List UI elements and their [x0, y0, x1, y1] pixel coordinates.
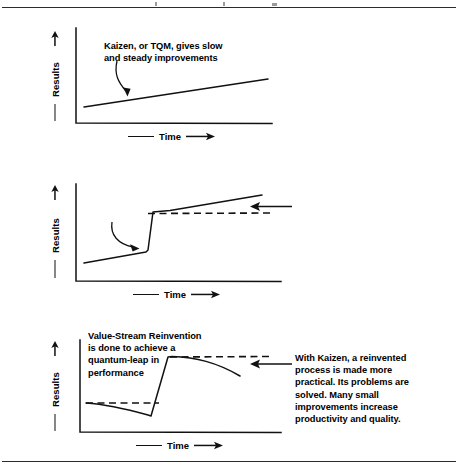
chart2-x-axis-text: Time	[164, 289, 186, 300]
chart2-x-axis-dash	[133, 294, 159, 295]
chart3-plot	[0, 320, 458, 458]
chart1-x-axis-dash	[128, 136, 154, 137]
scan-speck	[272, 3, 277, 6]
chart1-annotation: Kaizen, or TQM, gives slow and steady im…	[104, 40, 223, 64]
figure-top-rule	[2, 7, 456, 8]
chart-kaizen-steady: Results Kaizen, or TQM, gives slow and s…	[0, 14, 458, 150]
right-arrow-icon	[186, 131, 216, 142]
chart-without-kaizen: Results Without Kaizen, procedures tend …	[0, 320, 458, 458]
figure-bottom-rule	[2, 461, 456, 462]
scan-speck	[223, 2, 225, 6]
chart1-plot	[0, 14, 458, 150]
chart3-x-axis-label: Time	[136, 440, 224, 451]
chart-value-stream-reinvention: Results Value-Stream Reinvention is done…	[0, 160, 458, 310]
right-arrow-icon	[191, 289, 221, 300]
chart2-x-axis-label: Time	[133, 289, 221, 300]
scan-speck	[155, 2, 157, 6]
chart1-x-axis-text: Time	[159, 131, 181, 142]
figure-page: Results Kaizen, or TQM, gives slow and s…	[0, 0, 458, 475]
chart1-x-axis-label: Time	[128, 131, 216, 142]
chart3-x-axis-text: Time	[167, 440, 189, 451]
right-arrow-icon	[194, 440, 224, 451]
chart2-plot-lines	[0, 160, 458, 310]
chart3-x-axis-dash	[136, 445, 162, 446]
